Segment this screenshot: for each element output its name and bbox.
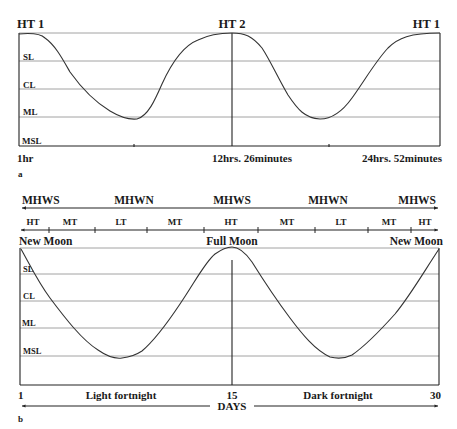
range-label-mhwn-2: MHWN (308, 194, 348, 206)
panel-a-time-end: 24hrs. 52minutes (362, 152, 443, 164)
panel-b-tide-curve (21, 247, 439, 358)
panel-b-level-cl: CL (23, 291, 35, 301)
panel-a-level-cl: CL (23, 80, 36, 90)
panel-a-ht1-right-label: HT 1 (413, 17, 440, 31)
fortnight-label-light: Light fortnight (86, 389, 157, 401)
range-label-mhws-3: MHWS (398, 194, 436, 206)
tide-diagram: HT 1 HT 2 HT 1 SL CL ML MSL 1hr 12hrs. 2… (0, 0, 457, 429)
tide-label: LT (335, 217, 346, 227)
panel-a-ht1-left-label: HT 1 (17, 17, 44, 31)
tide-label: MT (382, 217, 397, 227)
panel-a-level-sl: SL (23, 52, 34, 62)
range-label-mhws-1: MHWS (22, 194, 60, 206)
moon-label-new-right: New Moon (390, 235, 444, 247)
range-label-mhws-2: MHWS (213, 194, 251, 206)
days-axis-title: DAYS (218, 400, 247, 412)
panel-a: HT 1 HT 2 HT 1 SL CL ML MSL 1hr 12hrs. 2… (17, 17, 443, 179)
range-label-mhwn-1: MHWN (114, 194, 154, 206)
arrow-right-icon (435, 229, 439, 232)
day-label-30: 30 (430, 389, 442, 401)
arrow-left-icon (22, 206, 26, 210)
tide-label: HT (26, 217, 39, 227)
tide-label: HT (224, 217, 237, 227)
panel-b-tag: b (18, 414, 23, 424)
panel-a-level-msl: MSL (22, 136, 42, 146)
panel-a-time-mid: 12hrs. 26minutes (212, 152, 293, 164)
arrow-left-icon (22, 405, 26, 408)
panel-b: MHWS MHWN MHWS MHWN MHWS HT MT LT MT HT … (18, 194, 444, 424)
tide-label: MT (63, 217, 78, 227)
tide-label: HT (418, 217, 431, 227)
tide-label: MT (168, 217, 183, 227)
panel-b-level-msl: MSL (23, 346, 42, 356)
tide-label: LT (115, 217, 126, 227)
panel-a-ht2-label: HT 2 (218, 17, 245, 31)
arrow-right-icon (434, 206, 438, 210)
arrow-right-icon (435, 405, 439, 408)
panel-a-time-start: 1hr (17, 152, 34, 164)
day-label-1: 1 (18, 389, 24, 401)
arrow-left-icon (21, 229, 25, 232)
panel-a-tag: a (18, 169, 23, 179)
fortnight-label-dark: Dark fortnight (303, 389, 373, 401)
moon-label-new-left: New Moon (19, 235, 73, 247)
panel-a-level-ml: ML (23, 107, 38, 117)
moon-label-full: Full Moon (206, 235, 258, 247)
panel-a-tide-curve (19, 33, 440, 119)
tide-label: MT (280, 217, 295, 227)
panel-b-level-ml: ML (22, 318, 36, 328)
